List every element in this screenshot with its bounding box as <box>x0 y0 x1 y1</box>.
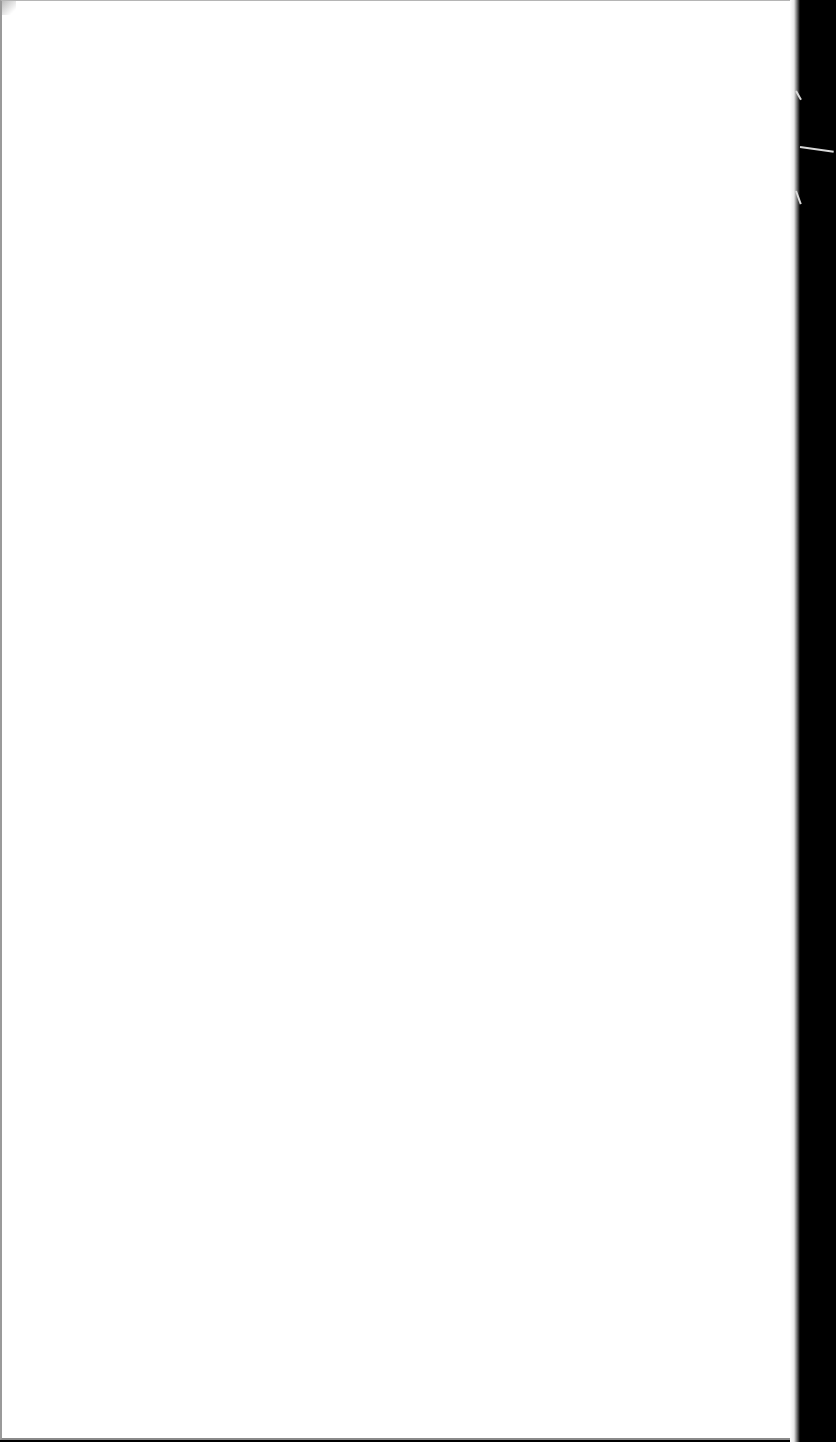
page-corner-shadow <box>2 1 16 15</box>
torn-page-edge <box>790 0 800 1442</box>
blank-paper-page <box>0 0 800 1440</box>
paper-fiber <box>800 146 834 153</box>
